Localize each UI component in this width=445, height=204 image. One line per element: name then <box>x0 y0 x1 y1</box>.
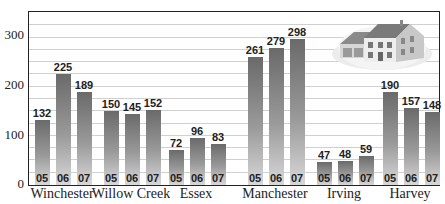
category-label: Essex <box>151 186 241 202</box>
year-label: 05 <box>101 172 121 184</box>
value-label: 132 <box>27 107 57 119</box>
value-label: 189 <box>69 79 99 91</box>
house-illustration <box>330 14 434 72</box>
y-tick-100: 100 <box>2 127 24 143</box>
year-label: 05 <box>314 172 334 184</box>
value-label: 83 <box>203 131 233 143</box>
value-label: 152 <box>138 97 168 109</box>
gridline <box>29 73 439 74</box>
value-label: 225 <box>48 61 78 73</box>
y-tick-300: 300 <box>2 27 24 43</box>
bar-chart: 0 100 200 300 13205225061890715005145061… <box>0 0 445 204</box>
year-label: 05 <box>380 172 400 184</box>
y-tick-200: 200 <box>2 77 24 93</box>
year-label: 07 <box>74 172 94 184</box>
value-label: 72 <box>161 137 191 149</box>
year-label: 06 <box>187 172 207 184</box>
value-label: 298 <box>282 26 312 38</box>
value-label: 190 <box>375 79 405 91</box>
year-label: 06 <box>53 172 73 184</box>
category-label: Harvey <box>365 186 445 202</box>
year-label: 06 <box>266 172 286 184</box>
year-label: 06 <box>401 172 421 184</box>
value-label: 59 <box>351 143 381 155</box>
year-label: 07 <box>208 172 228 184</box>
year-label: 07 <box>287 172 307 184</box>
bar-manchester-07 <box>290 39 305 185</box>
bar-manchester-05 <box>248 57 263 185</box>
year-label: 06 <box>335 172 355 184</box>
year-label: 05 <box>245 172 265 184</box>
value-label: 148 <box>417 99 445 111</box>
year-label: 05 <box>166 172 186 184</box>
year-label: 05 <box>32 172 52 184</box>
year-label: 07 <box>356 172 376 184</box>
year-label: 06 <box>122 172 142 184</box>
year-label: 07 <box>143 172 163 184</box>
year-label: 07 <box>422 172 442 184</box>
bar-manchester-06 <box>269 48 284 185</box>
